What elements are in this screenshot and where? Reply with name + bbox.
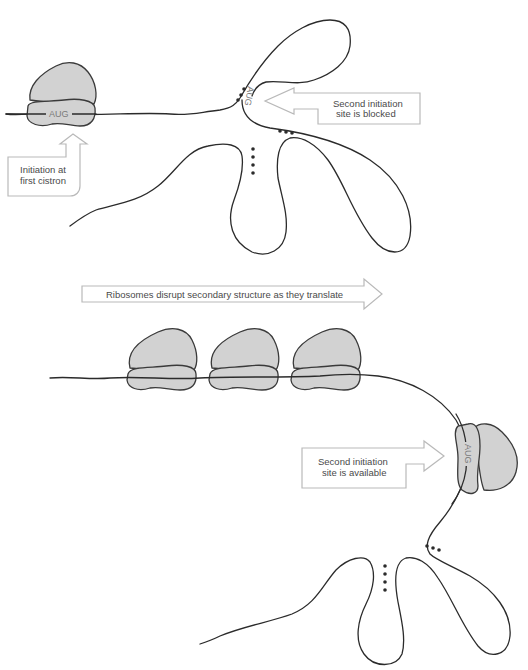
- polycistronic-translation-diagram: AUG AUG Initiation at first cistron Seco…: [0, 0, 528, 670]
- second-aug-label: AUG: [463, 444, 473, 464]
- translating-ribosome-1: [127, 329, 197, 390]
- translate-arrow-label: Ribosomes disrupt secondary structure as…: [106, 289, 343, 300]
- translating-ribosome-3: [291, 329, 361, 390]
- ribosome-large-subunit: [30, 63, 96, 104]
- base-pair-dots-bottom: [383, 544, 441, 592]
- callout-available-line2: site is available: [322, 467, 386, 478]
- translating-ribosome-2: [209, 329, 279, 390]
- callout-site-blocked: Second initiation site is blocked: [265, 88, 420, 124]
- callout-initiation-line2: first cistron: [20, 175, 66, 186]
- callout-initiation-line1: Initiation at: [20, 164, 66, 175]
- first-aug-label: AUG: [49, 109, 69, 119]
- mrna-strand-top: [6, 20, 411, 254]
- translate-direction-arrow: Ribosomes disrupt secondary structure as…: [82, 279, 382, 309]
- top-panel: AUG AUG Initiation at first cistron Seco…: [6, 20, 420, 254]
- bottom-panel: AUG Second initiation site is available: [50, 329, 517, 665]
- ribosome-second-initiation: AUG: [452, 414, 517, 504]
- ribosome-first-cistron: AUG: [6, 63, 96, 126]
- ribosome-large-subunit-second: [474, 424, 517, 490]
- callout-blocked-line2: site is blocked: [336, 108, 396, 119]
- mrna-strand-bottom: [50, 375, 510, 665]
- callout-available-line1: Second initiation: [318, 456, 388, 467]
- callout-initiation-first-cistron: Initiation at first cistron: [8, 134, 87, 196]
- callout-site-available: Second initiation site is available: [302, 441, 444, 488]
